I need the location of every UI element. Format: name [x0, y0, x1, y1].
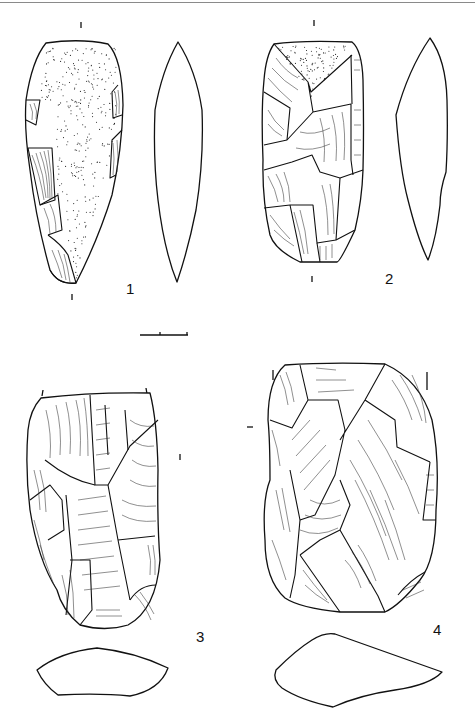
artifact-plate — [0, 0, 475, 718]
artifact-1 — [26, 22, 203, 300]
artifact-4 — [247, 363, 442, 707]
artifact-2 — [262, 20, 447, 282]
scale-bar — [140, 332, 188, 335]
artifact-3-cross-section-outline — [37, 648, 168, 696]
artifact-2-dorsal-outline — [262, 41, 363, 262]
artifact-3-dorsal-outline — [27, 393, 160, 629]
artifact-3-number-label: 3 — [196, 629, 204, 644]
orientation-tick — [42, 390, 43, 396]
artifact-2-profile-outline — [396, 38, 447, 260]
artifact-1-profile-outline — [154, 42, 202, 282]
artifact-4-dorsal-outline — [264, 363, 437, 612]
artifact-1-dorsal-outline — [26, 41, 124, 284]
artifact-4-number-label: 4 — [433, 622, 441, 637]
artifact-1-number-label: 1 — [126, 281, 134, 296]
artifact-2-number-label: 2 — [385, 271, 393, 286]
artifact-4-cross-section-outline — [275, 634, 442, 707]
artifact-3 — [27, 388, 180, 696]
